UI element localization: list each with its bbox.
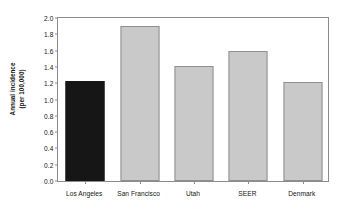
- x-tick-label: San Francisco: [117, 190, 160, 197]
- bar-slot: [112, 18, 166, 181]
- bars-layer: [58, 18, 328, 181]
- y-axis-title-line-1: Annual incidence: [9, 43, 18, 135]
- x-tick-mark: [85, 181, 86, 184]
- bar-seer: [229, 51, 268, 181]
- x-tick-mark: [248, 181, 249, 184]
- x-tick-label: Denmark: [288, 190, 315, 197]
- x-tick-label: Los Angeles: [66, 190, 102, 197]
- x-tick-label: SEER: [238, 190, 256, 197]
- x-tick-mark: [194, 181, 195, 184]
- y-axis-title-line-2: (per 100,000): [18, 43, 27, 135]
- x-tick-label: Utah: [186, 190, 200, 197]
- bar-denmark: [283, 82, 322, 181]
- y-axis-title: Annual incidence (per 100,000): [9, 43, 31, 135]
- bar-slot: [276, 18, 330, 181]
- x-tick-mark: [303, 181, 304, 184]
- plot-area: 0.00.20.40.60.81.01.21.41.61.82.0: [57, 17, 329, 182]
- bar-slot: [221, 18, 275, 181]
- bar-slot: [58, 18, 112, 181]
- bar-los-angeles: [66, 81, 105, 181]
- x-tick-mark: [140, 181, 141, 184]
- bar-san-francisco: [120, 26, 159, 181]
- bar-slot: [167, 18, 221, 181]
- bar-chart-figure: Annual incidence (per 100,000) 0.00.20.4…: [0, 0, 346, 211]
- bar-utah: [174, 66, 213, 181]
